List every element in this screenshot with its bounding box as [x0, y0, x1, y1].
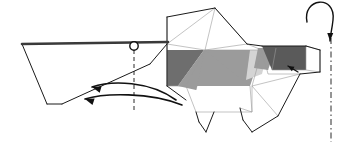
pivot-point-circle: [130, 42, 138, 50]
origami-illustration: [0, 0, 338, 142]
origami-diagram: [0, 0, 338, 142]
